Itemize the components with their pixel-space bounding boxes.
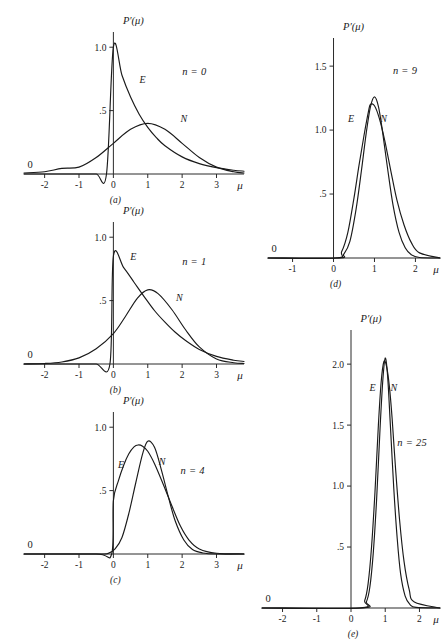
panel-a: -2-10123.51.00P′(μ)μENn = 0(a) — [24, 15, 244, 206]
x-tick-label-d-0: -1 — [289, 264, 297, 274]
x-axis-title-c: μ — [236, 559, 243, 571]
y-tick-label-c-0: .5 — [99, 486, 106, 496]
x-tick-label-c-2: 0 — [111, 560, 116, 570]
x-tick-label-c-4: 2 — [180, 560, 185, 570]
curve-b-e — [24, 251, 244, 372]
curve-a-n — [24, 123, 244, 173]
origin-zero-label-b: 0 — [27, 349, 32, 360]
panel-label-e: (e) — [348, 629, 359, 639]
panels-root: -2-10123.51.00P′(μ)μENn = 0(a)-2-10123.5… — [24, 15, 440, 639]
x-tick-label-e-0: -2 — [279, 614, 287, 624]
curve-b-n — [24, 290, 244, 364]
curve-label-b-e: E — [129, 251, 136, 262]
y-axis-title-c: P′(μ) — [122, 395, 144, 407]
origin-zero-label-e: 0 — [265, 593, 270, 604]
panel-label-d: (d) — [330, 279, 341, 290]
y-tick-label-d-0: .5 — [319, 189, 326, 199]
y-tick-label-a-0: .5 — [99, 106, 106, 116]
panel-label-b: (b) — [110, 385, 121, 396]
y-tick-label-d-2: 1.5 — [315, 62, 327, 72]
x-tick-label-b-3: 1 — [145, 370, 150, 380]
curve-c-n — [24, 441, 244, 554]
x-tick-label-e-4: 2 — [417, 614, 422, 624]
panel-label-a: (a) — [110, 195, 121, 206]
x-tick-label-c-3: 1 — [145, 560, 150, 570]
curve-label-a-e: E — [139, 74, 146, 85]
y-tick-label-e-1: 1.0 — [332, 481, 344, 491]
x-axis-title-b: μ — [236, 369, 243, 381]
x-tick-label-a-2: 0 — [111, 180, 116, 190]
x-tick-label-b-4: 2 — [180, 370, 185, 380]
x-tick-label-e-3: 1 — [383, 614, 388, 624]
x-tick-label-a-1: -1 — [75, 180, 83, 190]
curve-label-b-n: N — [175, 292, 184, 303]
curve-label-e-e: E — [369, 382, 376, 393]
x-tick-label-e-1: -1 — [313, 614, 321, 624]
n-annotation-c: n = 4 — [180, 465, 205, 476]
y-tick-label-e-2: 1.5 — [332, 421, 344, 431]
origin-zero-label-a: 0 — [27, 159, 32, 170]
y-axis-title-e: P′(μ) — [360, 313, 382, 325]
n-annotation-a: n = 0 — [182, 66, 207, 77]
x-tick-label-e-2: 0 — [349, 614, 354, 624]
y-tick-label-c-1: 1.0 — [95, 423, 107, 433]
panel-c: -2-10123.51.00P′(μ)μENn = 4(c) — [24, 395, 244, 586]
n-annotation-e: n = 25 — [397, 437, 427, 448]
x-tick-label-c-1: -1 — [75, 560, 83, 570]
n-annotation-b: n = 1 — [182, 256, 206, 267]
panel-b: -2-10123.51.00P′(μ)μENn = 1(b) — [24, 205, 244, 396]
y-axis-title-b: P′(μ) — [122, 205, 144, 217]
x-tick-label-a-0: -2 — [41, 180, 49, 190]
x-tick-label-c-5: 3 — [214, 560, 219, 570]
x-tick-label-d-1: 0 — [331, 264, 336, 274]
x-tick-label-d-3: 2 — [413, 264, 418, 274]
panel-d: -1012.51.01.50P′(μ)μENn = 9(d) — [268, 21, 440, 290]
panel-e: -2-1012.51.01.52.00P′(μ)μENn = 25(e) — [262, 313, 440, 639]
curve-label-e-n: N — [389, 382, 398, 393]
y-axis-title-a: P′(μ) — [122, 15, 144, 27]
y-tick-label-e-0: .5 — [337, 542, 344, 552]
probability-density-figure: -2-10123.51.00P′(μ)μENn = 0(a)-2-10123.5… — [0, 0, 448, 639]
curve-label-d-e: E — [347, 113, 354, 124]
x-axis-title-e: μ — [432, 613, 439, 625]
x-tick-label-b-2: 0 — [111, 370, 116, 380]
n-annotation-d: n = 9 — [393, 65, 418, 76]
y-axis-title-d: P′(μ) — [342, 21, 364, 33]
y-tick-label-a-1: 1.0 — [95, 43, 107, 53]
curve-label-c-n: N — [158, 456, 167, 467]
x-tick-label-a-4: 2 — [180, 180, 185, 190]
curve-label-c-e: E — [117, 459, 124, 470]
x-tick-label-c-0: -2 — [41, 560, 49, 570]
x-tick-label-b-0: -2 — [41, 370, 49, 380]
x-tick-label-a-5: 3 — [214, 180, 219, 190]
origin-zero-label-c: 0 — [27, 539, 32, 550]
y-tick-label-d-1: 1.0 — [315, 125, 327, 135]
y-tick-label-b-1: 1.0 — [95, 233, 107, 243]
origin-zero-label-d: 0 — [271, 243, 276, 254]
x-axis-title-a: μ — [236, 179, 243, 191]
y-tick-label-b-0: .5 — [99, 296, 106, 306]
curve-label-a-n: N — [180, 113, 189, 124]
curve-label-d-n: N — [379, 113, 388, 124]
x-tick-label-b-1: -1 — [75, 370, 83, 380]
curve-d-e — [268, 104, 440, 259]
x-tick-label-d-2: 1 — [372, 264, 377, 274]
x-tick-label-a-3: 1 — [145, 180, 150, 190]
panel-label-c: (c) — [110, 575, 121, 586]
curve-a-e — [24, 43, 244, 183]
curve-c-e — [24, 445, 244, 558]
x-axis-title-d: μ — [432, 263, 439, 275]
y-tick-label-e-3: 2.0 — [332, 360, 344, 370]
x-tick-label-b-5: 3 — [214, 370, 219, 380]
